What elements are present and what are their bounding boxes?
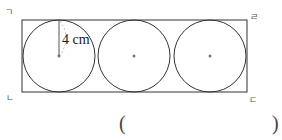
corner-label-top-right: ㄹ — [250, 12, 258, 22]
corner-label-bottom-right: ㄷ — [249, 95, 257, 105]
answer-close-paren: ) — [272, 112, 279, 135]
corner-label-bottom-left: ㄴ — [6, 93, 14, 103]
radius-label: 4 cm — [62, 32, 90, 47]
corner-label-top-left: ㄱ — [5, 7, 13, 17]
answer-open-paren: ( — [119, 112, 126, 135]
rectangle-with-circles-diagram: 4 cm ㄱ ㄹ ㄴ ㄷ ( ) — [0, 0, 282, 140]
center-dot-2 — [133, 55, 136, 58]
center-dot-3 — [209, 55, 212, 58]
